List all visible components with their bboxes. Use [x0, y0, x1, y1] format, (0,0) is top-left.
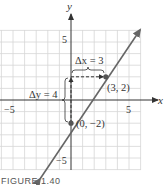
x-tick-5: 5 — [126, 104, 131, 115]
point-0-neg2 — [68, 121, 73, 126]
delta-x-brace — [72, 67, 104, 73]
y-tick-neg5: −5 — [56, 155, 67, 166]
delta-y-label: Δy = 4 — [29, 89, 58, 100]
point-label-0-neg2: (0, −2) — [76, 118, 105, 130]
graph-line — [40, 30, 140, 179]
delta-x-label: Δx = 3 — [75, 55, 103, 66]
y-axis-label: y — [66, 0, 72, 12]
figure-caption: FIGURE 1.40 — [1, 176, 61, 185]
point-label-3-2: (3, 2) — [107, 82, 130, 94]
x-tick-neg5: −5 — [4, 104, 15, 115]
y-tick-5: 5 — [62, 34, 67, 45]
point-3-2 — [103, 74, 108, 79]
coordinate-plane: x y −5 5 5 −5 Δx = 3 Δy = 4 (3, 2) (0, −… — [0, 0, 165, 185]
x-axis-label: x — [157, 94, 163, 106]
